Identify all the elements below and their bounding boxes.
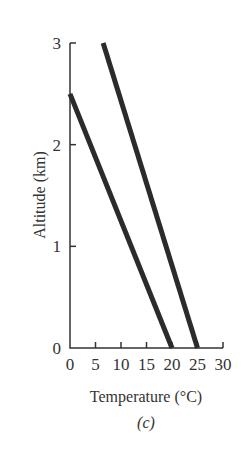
x-tick-label: 25 — [189, 355, 206, 374]
x-tick-label: 15 — [138, 355, 155, 374]
x-tick-label: 10 — [113, 355, 130, 374]
y-tick-label: 0 — [53, 339, 62, 358]
ticks — [70, 43, 223, 348]
data-series — [70, 43, 198, 348]
x-tick-label: 30 — [215, 355, 232, 374]
y-axis-title: Altitude (km) — [31, 151, 49, 239]
y-tick-label: 1 — [53, 237, 62, 256]
axes — [70, 43, 223, 348]
x-tick-label: 20 — [164, 355, 181, 374]
chart: 0510152025300123 Temperature (°C) Altitu… — [0, 0, 246, 451]
x-axis-title: Temperature (°C) — [90, 388, 202, 406]
line-profile-2 — [103, 43, 197, 348]
x-tick-label: 0 — [66, 355, 75, 374]
panel-caption: (c) — [137, 414, 155, 432]
axis-lines — [70, 43, 223, 348]
y-tick-label: 3 — [53, 34, 62, 53]
tick-labels: 0510152025300123 — [53, 34, 232, 374]
x-tick-label: 5 — [91, 355, 100, 374]
y-tick-label: 2 — [53, 136, 62, 155]
